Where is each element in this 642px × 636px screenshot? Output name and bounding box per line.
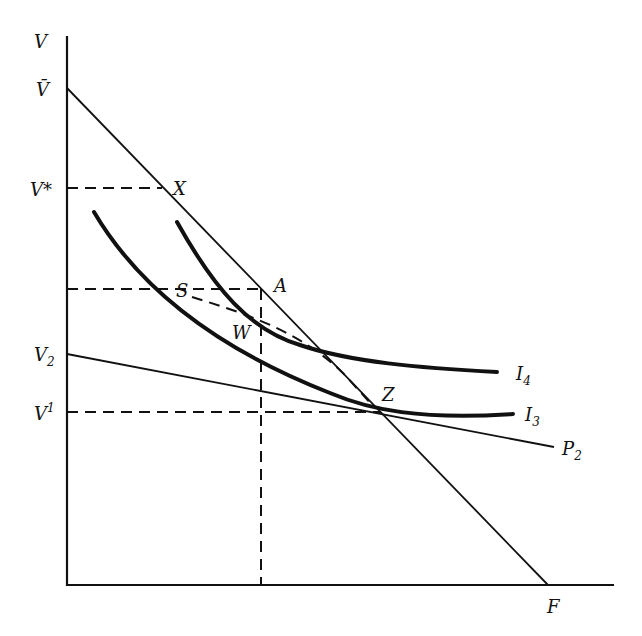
p2-line	[67, 354, 554, 447]
point-s-label: S	[176, 280, 188, 301]
y-axis-label: V	[34, 31, 49, 52]
economics-diagram: V F V̄ V* V2 V1 X A S W Z I4 I3 P2	[0, 0, 642, 636]
point-a-label: A	[272, 275, 287, 296]
curve-p2-label: P2	[561, 438, 582, 463]
curve-i4-label: I4	[515, 363, 531, 388]
budget-line	[67, 88, 548, 585]
curve-i3-label: I3	[524, 404, 540, 429]
point-w-label: W	[232, 322, 252, 343]
point-z-label: Z	[381, 384, 395, 405]
y-tick-vstar: V*	[30, 179, 52, 200]
y-tick-v1: V1	[34, 401, 55, 424]
indifference-curve-i4	[177, 222, 497, 372]
point-x-label: X	[171, 178, 187, 199]
y-tick-v2: V2	[34, 344, 55, 369]
s-to-z-dashed-path	[192, 297, 372, 405]
x-axis-label: F	[546, 596, 561, 617]
indifference-curve-i3	[94, 212, 513, 416]
y-tick-vbar: V̄	[36, 78, 51, 100]
